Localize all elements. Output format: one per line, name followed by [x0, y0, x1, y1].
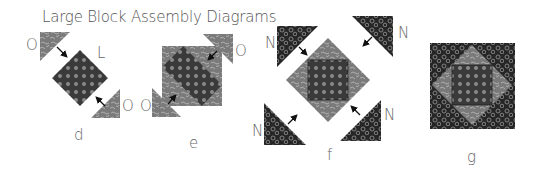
triangle-o-bottom: [91, 89, 120, 118]
diagram-d: O L O d: [26, 32, 134, 144]
arrow-icon: [57, 47, 66, 56]
arrow-icon: [288, 116, 296, 124]
svg-text:f: f: [327, 146, 333, 164]
svg-text:O: O: [122, 97, 134, 115]
diagram-e: O O e: [140, 34, 247, 152]
diagram-f: N N N N f: [252, 16, 409, 164]
arrow-icon: [97, 98, 105, 106]
arrow-icon: [364, 37, 372, 45]
svg-text:O: O: [26, 36, 38, 54]
svg-text:O: O: [140, 97, 152, 115]
diagram-g: g: [430, 43, 515, 166]
assembly-diagrams: O L O d O O e N N N N f: [0, 0, 541, 174]
arrow-icon: [352, 107, 360, 115]
svg-text:d: d: [74, 126, 84, 144]
center-square: [308, 60, 348, 100]
svg-text:N: N: [265, 34, 276, 52]
svg-text:e: e: [189, 134, 198, 152]
arrow-icon: [299, 47, 306, 54]
center-square: [452, 65, 492, 105]
triangle-o-top: [40, 32, 70, 61]
svg-text:O: O: [235, 42, 247, 60]
triangle-n-br: [340, 100, 381, 141]
svg-text:L: L: [97, 44, 105, 62]
triangle-n-bl: [264, 103, 306, 145]
triangle-n-tr: [352, 16, 393, 57]
svg-text:g: g: [467, 148, 476, 166]
svg-text:N: N: [384, 106, 395, 124]
svg-text:N: N: [252, 122, 263, 140]
svg-text:N: N: [398, 24, 409, 42]
